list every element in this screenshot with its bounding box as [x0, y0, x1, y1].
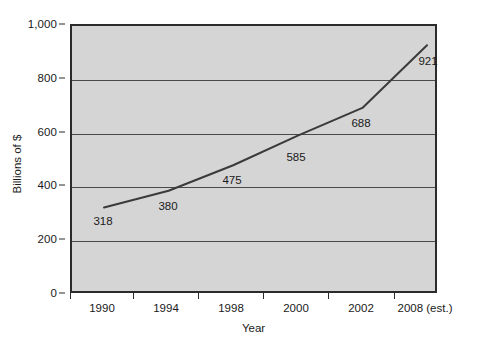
point-label-380: 380: [158, 200, 177, 212]
series-polyline: [104, 45, 427, 207]
point-label-585: 585: [286, 151, 305, 163]
line-chart-figure: 1,000 800 600 400 200 0 Billions of $ 19…: [0, 0, 482, 346]
point-label-318: 318: [93, 215, 112, 227]
point-label-688: 688: [351, 117, 370, 129]
data-series-line: [0, 0, 482, 346]
point-label-475: 475: [222, 174, 241, 186]
point-label-921: 921: [418, 55, 437, 67]
